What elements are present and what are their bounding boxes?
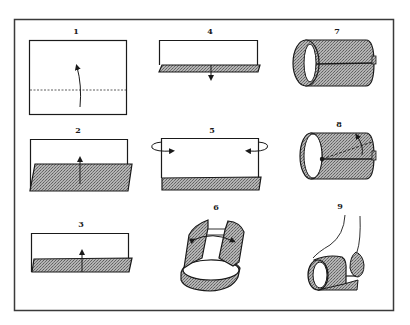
step-2: 2: [30, 125, 132, 191]
step-7-cylinder-opening: [304, 44, 316, 82]
step-6-label: 6: [213, 202, 219, 212]
folding-instructions-diagram: 1 2 3 4 5 6: [0, 0, 410, 325]
step-8-cylinder-opening: [304, 134, 322, 178]
step-8: 8: [300, 119, 376, 179]
step-4-folded-strip: [159, 65, 260, 72]
step-8-seam-tab: [372, 151, 376, 160]
step-6: 6: [181, 202, 244, 291]
step-9-cylinder-opening: [313, 262, 327, 288]
step-9: 9: [308, 201, 364, 290]
step-9-fingertip: [350, 252, 364, 277]
step-5-right-roll-arrow-icon: [248, 142, 268, 151]
step-5-shaded-band: [162, 177, 261, 190]
step-7: 7: [293, 26, 376, 86]
step-9-finger-left-outline: [313, 215, 345, 258]
step-9-label: 9: [337, 201, 343, 211]
step-2-label: 2: [75, 125, 81, 135]
step-4-sheet: [160, 41, 258, 66]
step-4: 4: [159, 26, 260, 78]
step-5: 5: [152, 125, 268, 190]
step-1-label: 1: [73, 26, 79, 36]
step-2-folded-flap: [30, 164, 132, 191]
step-7-seam-tab: [372, 56, 376, 64]
step-4-label: 4: [207, 26, 213, 36]
step-5-label: 5: [209, 125, 215, 135]
step-3-label: 3: [78, 219, 84, 229]
step-3: 3: [32, 219, 133, 272]
step-1-sheet: [30, 41, 127, 115]
step-7-seam: [316, 63, 374, 64]
step-8-label: 8: [336, 119, 342, 129]
step-9-finger-right-outline: [357, 216, 360, 252]
step-5-sheet: [162, 139, 259, 179]
step-1: 1: [30, 26, 127, 115]
step-6-right-panel: [219, 221, 244, 266]
step-7-label: 7: [334, 26, 340, 36]
